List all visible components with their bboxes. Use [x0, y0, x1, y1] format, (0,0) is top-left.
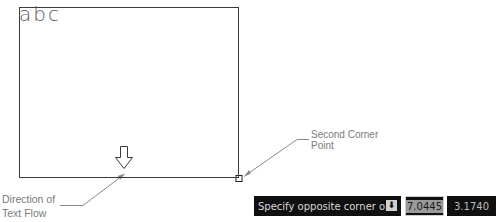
mtext-sample-text: abc — [19, 4, 61, 24]
callout-line: Text Flow — [2, 206, 55, 220]
command-prompt-text: Specify opposite corner or — [258, 201, 389, 212]
mtext-bounding-box[interactable] — [19, 7, 239, 178]
command-prompt: Specify opposite corner or ⬇ — [254, 196, 401, 216]
down-arrow-options-icon[interactable]: ⬇ — [386, 200, 397, 211]
x-coordinate-input[interactable]: 7.0445 — [405, 196, 444, 216]
second-corner-callout: Second Corner Point — [311, 129, 378, 151]
second-corner-leader — [244, 140, 310, 178]
text-flow-leader — [60, 174, 125, 206]
x-coordinate-value[interactable]: 7.0445 — [406, 200, 443, 213]
y-coordinate-input[interactable]: 3.1740 — [447, 196, 496, 216]
text-flow-callout: Direction of Text Flow — [2, 192, 55, 220]
callout-line: Point — [311, 140, 378, 151]
y-coordinate-value[interactable]: 3.1740 — [454, 201, 489, 212]
callout-line: Direction of — [2, 192, 55, 206]
callout-line: Second Corner — [311, 129, 378, 140]
